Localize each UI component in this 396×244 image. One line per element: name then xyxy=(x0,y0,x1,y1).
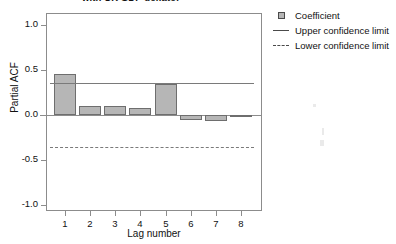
x-tick-mark xyxy=(140,211,141,216)
x-tick-label: 8 xyxy=(233,218,249,229)
y-tick-mark xyxy=(41,70,46,71)
y-tick-label: 0.0 xyxy=(25,108,38,119)
y-tick-label: 1.0 xyxy=(25,18,38,29)
bar-lag-5 xyxy=(155,84,177,115)
x-axis-label: Lag number xyxy=(46,228,262,239)
y-axis-label: Partial ACF xyxy=(9,48,20,128)
legend-label: Upper confidence limit xyxy=(295,25,389,36)
legend-label: Coefficient xyxy=(295,10,340,21)
y-tick-mark xyxy=(41,25,46,26)
upper-confidence-line xyxy=(50,83,254,84)
legend-item-upper-confidence: Upper confidence limit xyxy=(272,23,396,38)
bar-swatch-icon xyxy=(272,10,290,21)
x-tick-label: 7 xyxy=(208,218,224,229)
x-tick-label: 1 xyxy=(57,218,73,229)
legend-label: Lower confidence limit xyxy=(295,40,389,51)
y-tick-mark xyxy=(41,160,46,161)
bar-lag-6 xyxy=(180,115,202,120)
x-tick-label: 5 xyxy=(158,218,174,229)
legend-item-coefficient: Coefficient xyxy=(272,8,396,23)
x-tick-mark xyxy=(90,211,91,216)
y-tick-label: 0.5 xyxy=(25,63,38,74)
scan-artifact xyxy=(322,128,324,135)
zero-baseline xyxy=(40,115,262,116)
x-tick-label: 4 xyxy=(132,218,148,229)
y-tick-label: -1.0 xyxy=(22,198,38,209)
legend-item-lower-confidence: Lower confidence limit xyxy=(272,38,396,53)
bar-lag-4 xyxy=(129,108,151,115)
x-tick-mark xyxy=(65,211,66,216)
x-tick-mark xyxy=(166,211,167,216)
lower-confidence-line xyxy=(50,147,254,148)
scan-artifact xyxy=(313,104,316,107)
chart-title: with UK GDP deflator xyxy=(0,0,262,3)
dashed-line-icon xyxy=(272,40,290,51)
x-tick-label: 6 xyxy=(183,218,199,229)
bar-lag-1 xyxy=(54,74,76,115)
y-tick-mark xyxy=(41,205,46,206)
bar-lag-2 xyxy=(79,106,101,115)
y-tick-label: -0.5 xyxy=(22,153,38,164)
bar-lag-7 xyxy=(205,115,227,121)
x-tick-mark xyxy=(216,211,217,216)
x-tick-label: 3 xyxy=(107,218,123,229)
bar-lag-3 xyxy=(104,106,126,115)
scan-artifact xyxy=(320,140,324,146)
partial-acf-chart: with UK GDP deflator Partial ACF Lag num… xyxy=(0,0,396,244)
solid-line-icon xyxy=(272,25,290,36)
chart-legend: Coefficient Upper confidence limit Lower… xyxy=(272,8,396,53)
x-tick-mark xyxy=(115,211,116,216)
x-tick-mark xyxy=(241,211,242,216)
x-tick-mark xyxy=(191,211,192,216)
x-tick-label: 2 xyxy=(82,218,98,229)
bar-lag-8 xyxy=(230,115,252,117)
